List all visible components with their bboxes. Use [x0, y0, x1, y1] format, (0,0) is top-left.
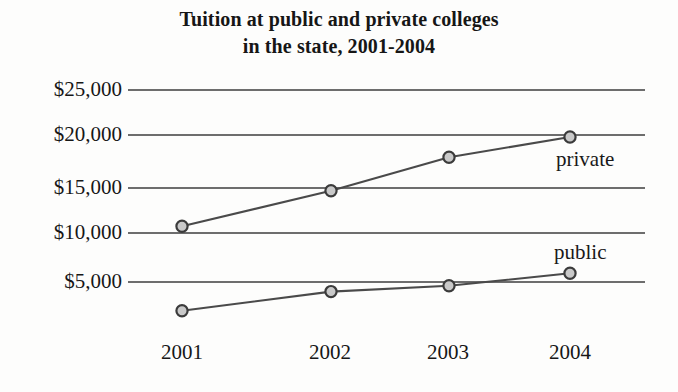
y-tick-label-25000: $25,000 — [2, 79, 122, 100]
x-tick-label-2004: 2004 — [525, 340, 615, 364]
y-tick-label-20000: $20,000 — [2, 124, 122, 145]
y-tick-label-15000: $15,000 — [2, 177, 122, 198]
data-point-private-2001 — [176, 221, 187, 232]
plot-area: $25,000 $20,000 $15,000 $10,000 $5,000 2… — [0, 0, 678, 392]
data-point-public-2002 — [325, 286, 336, 297]
series-markers-public — [176, 268, 575, 317]
gridline-15000 — [128, 187, 645, 189]
series-label-public: public — [554, 241, 607, 263]
y-tick-label-5000: $5,000 — [2, 271, 122, 292]
x-tick-label-2003: 2003 — [403, 340, 493, 364]
gridline-20000 — [128, 134, 645, 136]
series-line-private — [182, 137, 570, 226]
data-point-public-2001 — [176, 305, 187, 316]
gridline-10000 — [128, 232, 645, 234]
x-tick-label-2002: 2002 — [285, 340, 375, 364]
y-tick-label-10000: $10,000 — [2, 222, 122, 243]
chart-figure: Tuition at public and private colleges i… — [0, 0, 678, 392]
series-label-private: private — [556, 148, 614, 170]
data-point-public-2004 — [564, 268, 575, 279]
x-tick-label-2001: 2001 — [137, 340, 227, 364]
gridline-25000 — [128, 89, 645, 91]
series-line-public — [182, 273, 570, 311]
series-markers-private — [176, 131, 575, 232]
data-point-private-2003 — [443, 152, 454, 163]
gridline-5000 — [128, 281, 645, 283]
